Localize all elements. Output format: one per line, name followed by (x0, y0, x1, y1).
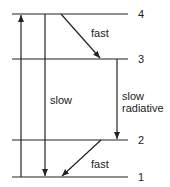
slow-radiative-label-line2: radiative (122, 102, 164, 114)
level-2-label: 2 (138, 134, 144, 146)
level-4-label: 4 (138, 8, 144, 20)
energy-level-diagram (0, 0, 170, 187)
level-1-label: 1 (138, 171, 144, 183)
level-3-label: 3 (138, 53, 144, 65)
fast-2-1-label: fast (91, 158, 109, 170)
slow-4-1-label: slow (50, 94, 72, 106)
fast-4-3-label: fast (91, 27, 109, 39)
slow-radiative-label-line1: slow (122, 90, 144, 102)
